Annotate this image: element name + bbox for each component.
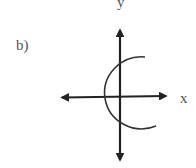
curve-arc bbox=[105, 57, 156, 129]
graph bbox=[0, 0, 196, 168]
x-axis bbox=[62, 96, 166, 98]
